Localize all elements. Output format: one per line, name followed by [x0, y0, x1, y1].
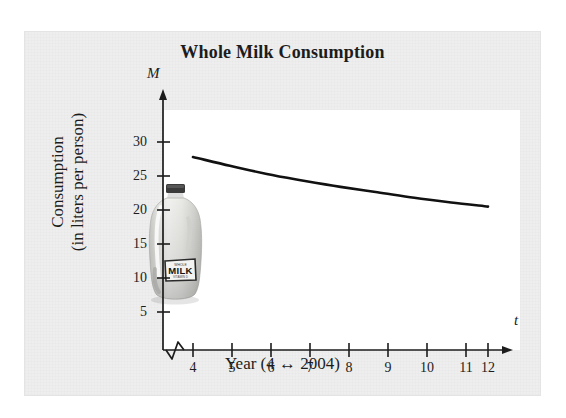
y-axis-title-line-2: (in liters per person)	[68, 77, 88, 287]
figure-screenshot: Whole Milk Consumption	[0, 0, 566, 418]
x-axis-arrowhead	[502, 346, 513, 354]
y-axis-arrowhead	[159, 89, 167, 100]
x-axis	[163, 346, 513, 354]
ytick-label-5: 5	[117, 304, 147, 320]
consumption-curve	[193, 157, 488, 207]
ytick-label-30: 30	[117, 134, 147, 150]
ytick-label-20: 20	[117, 202, 147, 218]
x-axis-title: Year (4 ↔ 2004)	[25, 354, 540, 374]
y-axis	[159, 89, 167, 350]
ytick-label-10: 10	[117, 270, 147, 286]
y-axis-variable-label: M	[147, 65, 160, 82]
x-axis-variable-label: t	[514, 312, 518, 329]
y-axis-title-line-1: Consumption	[48, 77, 68, 287]
ytick-label-25: 25	[117, 168, 147, 184]
ytick-label-15: 15	[117, 236, 147, 252]
y-axis-title: Consumption (in liters per person)	[48, 77, 88, 287]
figure-card: Whole Milk Consumption	[25, 32, 540, 395]
chart-vector-layer	[25, 32, 540, 395]
